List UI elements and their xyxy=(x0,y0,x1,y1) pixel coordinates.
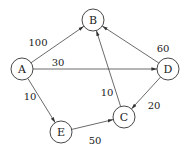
edge-arrow xyxy=(72,120,114,130)
edge-weight-label: 60 xyxy=(157,43,170,54)
node-e: E xyxy=(50,121,72,143)
graph-diagram: 100301050106020 ABDCE xyxy=(0,0,188,154)
node-c: C xyxy=(113,106,135,128)
edge-d-b: 60 xyxy=(102,26,169,63)
node-label: A xyxy=(17,63,27,76)
edge-weight-label: 10 xyxy=(24,91,37,102)
edge-weight-label: 100 xyxy=(28,37,47,48)
edge-a-d: 30 xyxy=(33,57,157,70)
node-label: D xyxy=(164,63,173,76)
node-label: B xyxy=(89,14,97,27)
edge-c-b: 10 xyxy=(96,30,120,106)
edge-a-e: 10 xyxy=(24,78,56,122)
edge-d-c: 20 xyxy=(131,77,160,110)
edge-arrow xyxy=(102,26,159,63)
edge-weight-label: 30 xyxy=(52,57,65,68)
edge-weight-label: 50 xyxy=(89,135,102,146)
nodes-layer: ABDCE xyxy=(11,9,179,143)
node-label: C xyxy=(120,111,128,124)
node-d: D xyxy=(157,58,179,80)
edge-weight-label: 20 xyxy=(148,100,161,111)
node-a: A xyxy=(11,58,33,80)
edge-weight-label: 10 xyxy=(101,87,114,98)
edge-e-c: 50 xyxy=(72,120,114,146)
node-b: B xyxy=(82,9,104,31)
node-label: E xyxy=(57,126,65,139)
edges-layer: 100301050106020 xyxy=(24,26,170,145)
